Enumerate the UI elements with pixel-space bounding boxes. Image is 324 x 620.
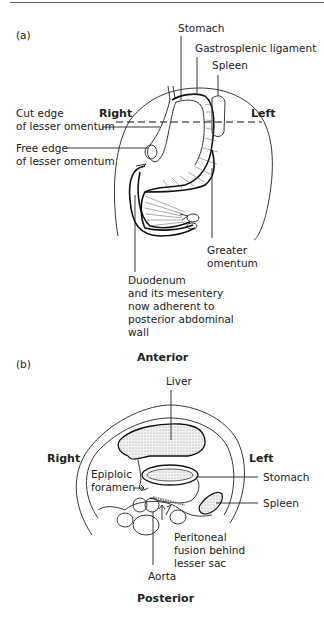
anatomy-figure: (a) [0, 0, 324, 620]
stomach-lumen [147, 469, 193, 481]
arrow-fusion-2 [166, 505, 171, 515]
label-left-a: Left [251, 107, 276, 120]
right-kidney [117, 513, 133, 527]
label-gastrosplenic: Gastrosplenic ligament [195, 42, 316, 54]
label-free-edge-2: of lesser omentum [16, 155, 115, 167]
label-anterior: Anterior [137, 351, 189, 364]
label-right-a: Right [99, 107, 132, 120]
panel-a: (a) [16, 22, 316, 338]
label-liver: Liver [166, 375, 192, 387]
left-kidney [170, 510, 186, 524]
label-greater-2: omentum [207, 257, 258, 269]
label-cut-edge-1: Cut edge [16, 107, 64, 119]
label-cut-edge-2: of lesser omentum [16, 120, 115, 132]
label-epiploic-2: foramen [91, 481, 135, 493]
label-duo-5: wall [128, 326, 149, 338]
free-edge-structures [145, 145, 157, 159]
label-spleen-a: Spleen [212, 59, 248, 71]
label-right-b: Right [47, 452, 80, 465]
panel-b-tag: (b) [16, 358, 31, 370]
label-duo-2: and its mesentery [128, 287, 223, 299]
label-greater-1: Greater [207, 244, 248, 256]
lesser-omentum [148, 100, 176, 162]
label-duo-4: posterior abdominal [128, 313, 234, 325]
label-stomach-a: Stomach [178, 22, 224, 34]
label-spleen-b: Spleen [263, 497, 299, 509]
label-peritoneal-2: fusion behind [174, 544, 245, 556]
label-left-b: Left [249, 452, 274, 465]
liver [118, 424, 205, 459]
body-outline-a [114, 88, 272, 240]
label-stomach-b: Stomach [263, 471, 309, 483]
epiploic-arrow [134, 485, 144, 491]
stomach-inner-a [176, 100, 204, 165]
label-aorta: Aorta [148, 570, 176, 582]
label-posterior: Posterior [137, 592, 195, 605]
panel-b: (b) Anterior Liver Right [16, 351, 309, 605]
label-duo-3: now adherent to [128, 300, 214, 312]
label-epiploic-1: Epiploic [91, 468, 132, 480]
arrow-fusion-1 [159, 505, 165, 520]
esophagus [168, 86, 175, 100]
vertebral-body [133, 515, 159, 535]
label-duo-1: Duodenum [128, 274, 186, 286]
duodenum-inner [138, 172, 190, 228]
label-peritoneal-1: Peritoneal [174, 531, 227, 543]
label-peritoneal-3: lesser sac [174, 557, 226, 569]
label-free-edge-1: Free edge [16, 142, 68, 154]
duodenal-end [187, 214, 199, 222]
panel-a-tag: (a) [16, 29, 31, 41]
posterior-peritoneum [98, 501, 212, 516]
